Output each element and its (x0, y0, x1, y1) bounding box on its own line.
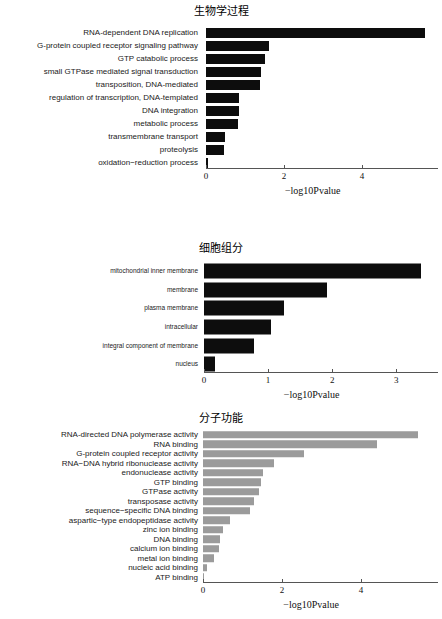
bar-track (202, 535, 442, 545)
axis-line (203, 582, 438, 583)
category-label: zinc ion binding (0, 525, 202, 534)
bar-bp-0 (206, 28, 425, 38)
bar-track (202, 554, 442, 564)
panel-title-cellular-component: 细胞组分 (0, 242, 442, 255)
bar-row: mitochondrial inner membrane (0, 262, 442, 281)
x-tick-label: 2 (330, 375, 335, 385)
bar-bp-1 (206, 41, 269, 51)
bar-track (202, 299, 442, 318)
category-label: intracellular (0, 323, 202, 331)
bar-row: aspartic−type endopeptidase activity (0, 516, 442, 526)
bar-row: metal ion binding (0, 554, 442, 564)
bar-mf-0 (203, 431, 418, 439)
bar-cc-0 (204, 264, 421, 279)
category-label: membrane (0, 286, 202, 294)
x-tick (361, 579, 362, 582)
bar-mf-7 (203, 498, 254, 506)
axis-line (204, 372, 438, 373)
x-tick-label: 1 (266, 375, 271, 385)
bar-row: calcium ion binding (0, 544, 442, 554)
category-label: nucleic acid binding (0, 563, 202, 572)
bar-row: small GTPase mediated signal transductio… (0, 65, 442, 78)
bar-track (202, 336, 442, 355)
panel-title-molecular-function: 分子功能 (0, 412, 442, 425)
x-tick-label: 2 (280, 585, 285, 595)
bar-track (202, 478, 442, 488)
bar-mf-1 (203, 441, 377, 449)
bar-mf-4 (203, 469, 263, 477)
bar-mf-8 (203, 507, 250, 515)
chart-panel-molecular-function: 分子功能 RNA-directed DNA polymerase activit… (0, 408, 442, 619)
plot-area-biological-process: RNA-dependent DNA replicationG-protein c… (0, 26, 442, 169)
bar-track (202, 355, 442, 374)
x-tick (268, 369, 269, 372)
bar-track (202, 525, 442, 535)
bar-row: nucleic acid binding (0, 563, 442, 573)
category-label: transmembrane transport (0, 132, 202, 141)
category-label: DNA integration (0, 106, 202, 115)
category-label: RNA binding (0, 440, 202, 449)
category-label: metabolic process (0, 119, 202, 128)
bar-row: GTPase activity (0, 487, 442, 497)
bar-row: transposase activity (0, 497, 442, 507)
bar-row: transmembrane transport (0, 130, 442, 143)
category-label: metal ion binding (0, 554, 202, 563)
category-label: GTP binding (0, 478, 202, 487)
category-label: transposition, DNA-mediated (0, 80, 202, 89)
bar-row: integral component of membrane (0, 336, 442, 355)
bar-bp-9 (206, 145, 224, 155)
bar-bp-5 (206, 93, 239, 103)
bar-bp-8 (206, 132, 225, 142)
bar-row: G-protein coupled receptor signaling pat… (0, 39, 442, 52)
x-axis-biological-process: 024−log10Pvalue (0, 168, 442, 208)
panel-title-biological-process: 生物学过程 (0, 5, 442, 18)
bar-mf-11 (203, 536, 220, 544)
bar-mf-10 (203, 526, 223, 534)
bar-track (202, 449, 442, 459)
axis-line (206, 168, 438, 169)
bar-track (202, 516, 442, 526)
x-axis-molecular-function: 024−log10Pvalue (0, 582, 442, 619)
bar-track (202, 26, 442, 39)
bar-row: zinc ion binding (0, 525, 442, 535)
bar-cc-3 (204, 320, 271, 335)
x-axis-cellular-component: 0123−log10Pvalue (0, 372, 442, 408)
chart-panel-cellular-component: 细胞组分 mitochondrial inner membranemembran… (0, 238, 442, 408)
bar-row: metabolic process (0, 117, 442, 130)
bar-track (202, 281, 442, 300)
bar-row: ATP binding (0, 573, 442, 583)
category-label: ATP binding (0, 573, 202, 582)
category-label: RNA−DNA hybrid ribonuclease activity (0, 459, 202, 468)
bar-mf-9 (203, 517, 230, 525)
bar-track (202, 52, 442, 65)
bar-track (202, 497, 442, 507)
bar-mf-13 (203, 555, 214, 563)
bar-cc-1 (204, 282, 327, 297)
category-label: calcium ion binding (0, 544, 202, 553)
bar-bp-4 (206, 80, 260, 90)
x-axis-title: −log10Pvalue (283, 599, 339, 610)
x-tick (284, 165, 285, 168)
category-label: small GTPase mediated signal transductio… (0, 67, 202, 76)
category-label: oxidation−reduction process (0, 158, 202, 167)
x-tick-label: 2 (282, 171, 287, 181)
x-tick (332, 369, 333, 372)
x-tick (206, 165, 207, 168)
bar-track (202, 91, 442, 104)
x-tick-label: 0 (202, 375, 207, 385)
bar-track (202, 143, 442, 156)
bar-cc-2 (204, 301, 284, 316)
x-tick (396, 369, 397, 372)
category-label: GTP catabolic process (0, 54, 202, 63)
category-label: GTPase activity (0, 487, 202, 496)
bar-row: GTP binding (0, 478, 442, 488)
x-tick (204, 369, 205, 372)
bar-bp-3 (206, 67, 261, 77)
category-label: RNA-directed DNA polymerase activity (0, 430, 202, 439)
category-label: integral component of membrane (0, 342, 202, 350)
category-label: DNA binding (0, 535, 202, 544)
bar-cc-4 (204, 338, 254, 353)
bar-bp-7 (206, 119, 238, 129)
bar-mf-5 (203, 479, 261, 487)
bar-track (202, 117, 442, 130)
